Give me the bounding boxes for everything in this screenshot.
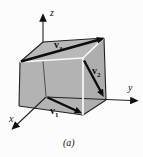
figure-caption: (a)	[63, 137, 75, 149]
cube-figure: z y x v3 v2 v1 (a)	[0, 0, 143, 157]
figure-panel: z y x v3 v2 v1 (a)	[0, 0, 143, 157]
z-axis-label: z	[49, 7, 54, 18]
y-axis-label: y	[127, 82, 133, 93]
x-axis-label: x	[8, 113, 14, 124]
